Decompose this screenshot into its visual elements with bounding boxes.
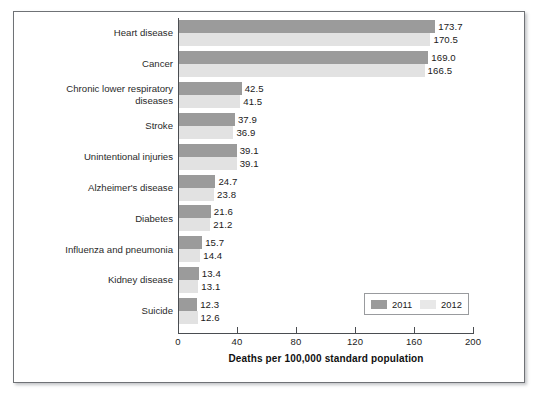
bar-2011 — [179, 82, 242, 95]
bar-2012 — [179, 218, 210, 231]
bar-value-label: 173.7 — [435, 20, 463, 33]
category-label-line: Unintentional injuries — [15, 151, 173, 163]
bar-value-label: 166.5 — [425, 64, 453, 77]
x-axis-tick-40 — [237, 327, 238, 334]
category-label-line: Suicide — [15, 305, 173, 317]
bar-value-label: 39.1 — [237, 144, 259, 157]
bar-2012 — [179, 126, 233, 139]
bar-2011 — [179, 205, 211, 218]
x-axis-tick-0 — [178, 327, 179, 334]
bar-value-label: 170.5 — [430, 33, 458, 46]
legend-swatch-2011 — [371, 300, 387, 309]
bar-value-label: 12.6 — [198, 311, 220, 324]
category-label-line: Heart disease — [15, 27, 173, 39]
x-axis-tick-label-160: 160 — [394, 336, 434, 347]
bar-value-label: 41.5 — [240, 95, 262, 108]
bar-2012 — [179, 95, 240, 108]
category-label-line: Chronic lower respiratory — [15, 83, 173, 95]
bar-value-label: 13.1 — [198, 280, 220, 293]
bar-value-label: 14.4 — [200, 249, 222, 262]
bar-2011 — [179, 298, 197, 311]
x-axis-title: Deaths per 100,000 standard population — [178, 353, 474, 364]
category-label-row: Chronic lower respiratorydiseases — [14, 82, 178, 109]
category-label-row: Stroke — [14, 113, 178, 140]
bar-2012 — [179, 188, 214, 201]
x-axis-tick-80 — [296, 327, 297, 334]
x-axis-tick-label-120: 120 — [335, 336, 375, 347]
category-label-row: Cancer — [14, 51, 178, 78]
bar-value-label: 42.5 — [242, 82, 264, 95]
bar-value-label: 24.7 — [215, 175, 237, 188]
x-axis-tick-label-0: 0 — [158, 336, 198, 347]
figure-frame: 04080120160200 Heart diseaseCancerChroni… — [13, 11, 525, 383]
legend-label-2012: 2012 — [441, 300, 462, 310]
bar-value-label: 36.9 — [233, 126, 255, 139]
category-label-row: Unintentional injuries — [14, 144, 178, 171]
category-label-line: diseases — [15, 95, 173, 107]
bar-value-label: 12.3 — [197, 298, 219, 311]
bar-value-label: 23.8 — [214, 188, 236, 201]
x-axis-tick-200 — [473, 327, 474, 334]
bar-value-label: 13.4 — [199, 267, 221, 280]
legend-label-2011: 2011 — [392, 300, 412, 310]
bar-2012 — [179, 64, 425, 77]
x-axis-tick-160 — [414, 327, 415, 334]
legend-entry-2012: 2012 — [420, 299, 462, 310]
category-label-row: Diabetes — [14, 205, 178, 232]
bar-2012 — [179, 311, 198, 324]
x-axis-tick-label-40: 40 — [217, 336, 257, 347]
category-label-line: Kidney disease — [15, 274, 173, 286]
category-label-line: Influenza and pneumonia — [15, 244, 173, 256]
bar-2011 — [179, 51, 428, 64]
category-label-row: Influenza and pneumonia — [14, 236, 178, 263]
bar-2012 — [179, 249, 200, 262]
category-label-row: Suicide — [14, 298, 178, 325]
bar-2011 — [179, 267, 199, 280]
category-label-line: Cancer — [15, 58, 173, 70]
bar-2011 — [179, 175, 215, 188]
category-label-line: Stroke — [15, 120, 173, 132]
bar-value-label: 39.1 — [237, 157, 259, 170]
category-label-line: Diabetes — [15, 213, 173, 225]
bar-2011 — [179, 113, 235, 126]
legend-entry-2011: 2011 — [371, 299, 412, 310]
x-axis-tick-label-200: 200 — [453, 336, 493, 347]
bar-2011 — [179, 144, 237, 157]
bar-2012 — [179, 33, 430, 46]
bar-value-label: 15.7 — [202, 236, 224, 249]
bar-chart-plot-area: 04080120160200 Heart diseaseCancerChroni… — [14, 12, 526, 384]
bar-2011 — [179, 236, 202, 249]
x-axis-tick-120 — [355, 327, 356, 334]
bar-value-label: 37.9 — [235, 113, 257, 126]
bar-2012 — [179, 280, 198, 293]
bar-2011 — [179, 20, 435, 33]
x-axis-tick-label-80: 80 — [276, 336, 316, 347]
bar-2012 — [179, 157, 237, 170]
category-label-row: Heart disease — [14, 20, 178, 47]
bar-value-label: 21.6 — [211, 205, 233, 218]
category-label-row: Alzheimer's disease — [14, 175, 178, 202]
category-label-row: Kidney disease — [14, 267, 178, 294]
category-label-line: Alzheimer's disease — [15, 182, 173, 194]
bar-value-label: 169.0 — [428, 51, 456, 64]
chart-legend: 2011 2012 — [364, 293, 469, 315]
bar-value-label: 21.2 — [210, 218, 232, 231]
legend-swatch-2012 — [420, 300, 436, 309]
x-axis-line — [178, 333, 474, 334]
